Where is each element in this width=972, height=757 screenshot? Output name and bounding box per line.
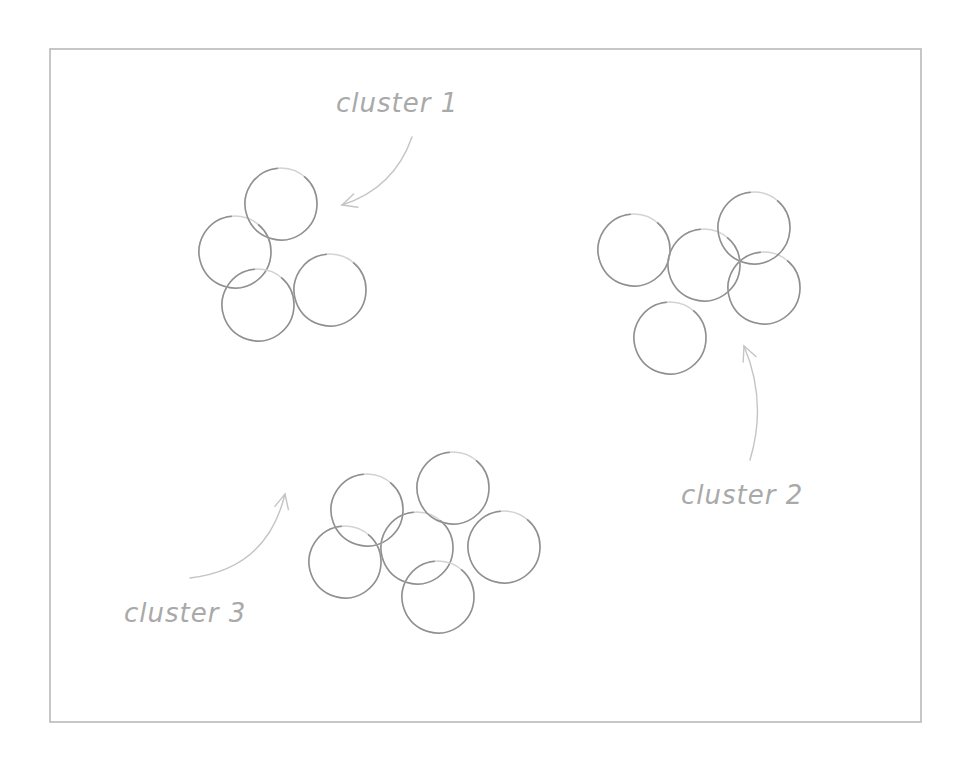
- circle-outline: [468, 511, 540, 583]
- cluster-1-label: cluster 1: [336, 90, 458, 116]
- cluster-3: [309, 452, 540, 633]
- arrows-layer: [190, 137, 757, 578]
- circle-outline: [309, 526, 381, 598]
- circle-outline: [417, 452, 489, 524]
- circle-outline: [634, 302, 706, 374]
- cluster-3-label: cluster 3: [124, 600, 246, 626]
- circles-layer: [199, 168, 800, 633]
- cluster-1: [199, 168, 366, 341]
- circle-outline: [331, 474, 403, 546]
- circle-outline: [294, 254, 366, 326]
- arrow-line: [190, 494, 285, 578]
- circle-outline: [245, 168, 317, 240]
- cluster-2: [598, 192, 800, 374]
- circle-outline: [668, 229, 740, 301]
- cluster-2-label: cluster 2: [681, 482, 803, 508]
- cluster-diagram: [0, 0, 972, 757]
- circle-outline: [402, 561, 474, 633]
- circle-outline: [598, 214, 670, 286]
- arrow-line: [744, 346, 757, 460]
